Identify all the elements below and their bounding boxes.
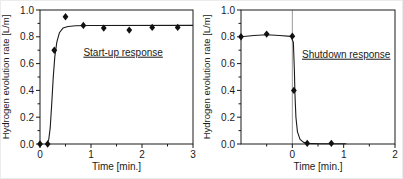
data-point-marker xyxy=(304,140,310,147)
startup-chart: 01230.00.20.40.60.81.0Time [min.]Hydroge… xyxy=(0,0,201,179)
y-tick-label: 1.0 xyxy=(221,5,235,16)
y-tick-label: 0.2 xyxy=(20,112,34,123)
data-point-marker xyxy=(264,30,270,37)
shutdown-chart: 0120.00.20.40.60.81.0Time [min.]Hydrogen… xyxy=(201,0,403,179)
data-point-marker xyxy=(63,13,69,20)
y-axis-label: Hydrogen evolution rate [L/m] xyxy=(0,15,11,140)
annotation-label: Shutdown response xyxy=(302,49,391,60)
y-tick-label: 0.4 xyxy=(221,85,235,96)
x-tick-label: 1 xyxy=(88,149,94,160)
y-tick-label: 0.8 xyxy=(20,31,34,42)
x-tick-label: 2 xyxy=(392,149,398,160)
data-point-marker xyxy=(80,22,86,29)
y-axis-label: Hydrogen evolution rate [L/m] xyxy=(201,15,212,140)
plot-frame xyxy=(241,10,395,144)
x-tick-label: 0 xyxy=(37,149,43,160)
x-axis-label: Time [min.] xyxy=(293,161,342,172)
plot-frame xyxy=(40,10,193,144)
y-tick-label: 0.0 xyxy=(20,139,34,150)
y-tick-label: 0.4 xyxy=(20,85,34,96)
startup-chart-panel: 01230.00.20.40.60.81.0Time [min.]Hydroge… xyxy=(0,0,201,179)
y-tick-label: 0.0 xyxy=(221,139,235,150)
data-point-marker xyxy=(149,24,155,31)
x-tick-label: 0 xyxy=(290,149,296,160)
y-tick-label: 0.8 xyxy=(221,31,235,42)
data-point-marker xyxy=(175,24,181,31)
shutdown-chart-panel: 0120.00.20.40.60.81.0Time [min.]Hydrogen… xyxy=(201,0,403,179)
y-tick-label: 0.6 xyxy=(221,58,235,69)
response-curve xyxy=(47,25,193,144)
data-point-marker xyxy=(238,33,244,40)
data-point-marker xyxy=(126,26,132,33)
y-tick-label: 1.0 xyxy=(20,5,34,16)
data-point-marker xyxy=(37,140,43,147)
data-point-marker xyxy=(45,140,51,147)
x-tick-label: 1 xyxy=(341,149,347,160)
x-tick-label: 2 xyxy=(139,149,145,160)
data-point-marker xyxy=(289,32,295,39)
x-axis-label: Time [min.] xyxy=(92,161,141,172)
data-point-marker xyxy=(328,140,334,147)
hydrogen-evolution-response-figure: 01230.00.20.40.60.81.0Time [min.]Hydroge… xyxy=(0,0,403,179)
y-tick-label: 0.2 xyxy=(221,112,235,123)
x-tick-label: 3 xyxy=(190,149,196,160)
annotation-label: Start-up response xyxy=(83,47,163,58)
y-tick-label: 0.6 xyxy=(20,58,34,69)
